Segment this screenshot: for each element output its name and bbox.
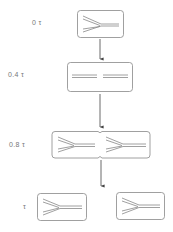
y-molecule-right-icon bbox=[106, 137, 146, 152]
y-molecule-icon bbox=[83, 16, 119, 32]
parallel-lines-icon bbox=[72, 75, 128, 78]
stage-tau-box-right bbox=[117, 193, 165, 220]
stage-tau-box-left bbox=[38, 194, 87, 221]
stage-08-box bbox=[52, 132, 150, 159]
y-molecule-icon bbox=[43, 199, 82, 215]
diagram-graphics bbox=[0, 0, 173, 232]
y-molecule-left-icon bbox=[58, 137, 95, 152]
y-molecule-icon bbox=[122, 198, 160, 214]
stage-04-box bbox=[68, 63, 133, 92]
